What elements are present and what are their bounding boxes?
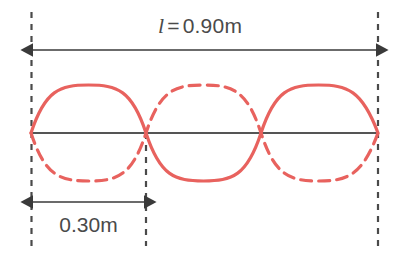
length-symbol: l xyxy=(158,13,166,38)
equals-sign: = xyxy=(166,14,182,37)
total-length-label: l=0.90m xyxy=(0,13,400,39)
standing-wave-figure: l=0.90m 0.30m xyxy=(0,0,400,255)
total-length-value: 0.90m xyxy=(183,14,242,37)
segment-length-label: 0.30m xyxy=(31,212,146,238)
